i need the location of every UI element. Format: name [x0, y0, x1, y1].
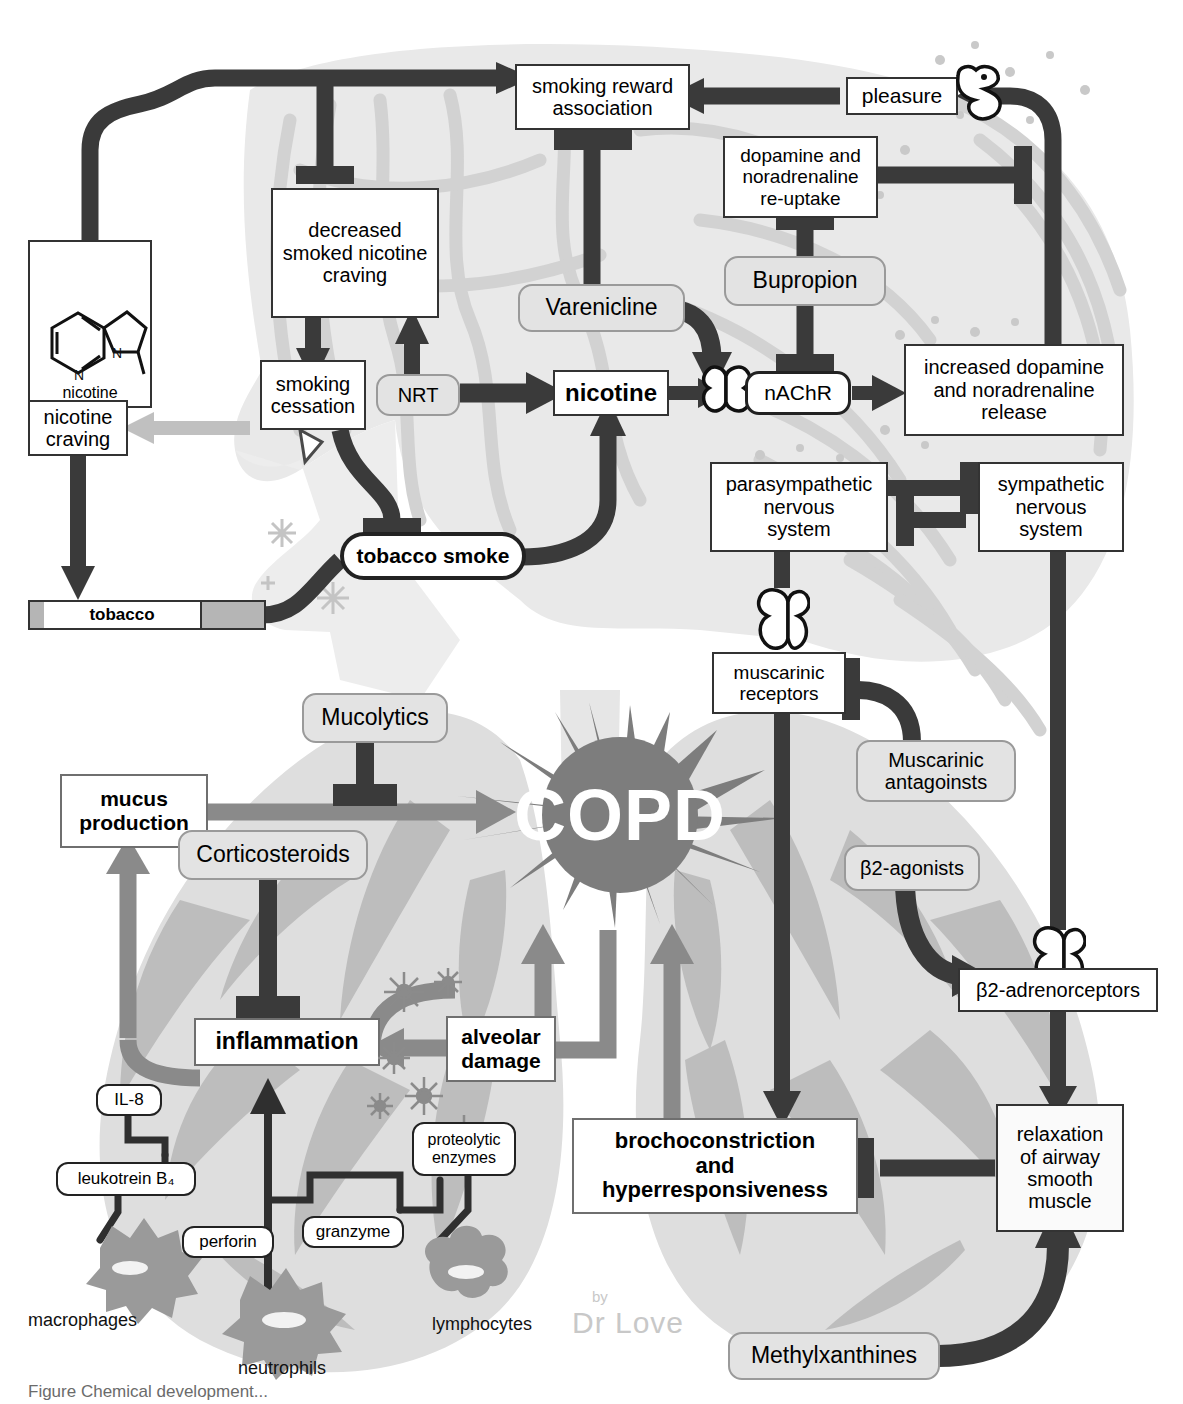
svg-text:N: N — [74, 367, 84, 383]
node-tobacco-cigarette: tobacco — [28, 600, 266, 630]
node-smoking-reward-association: smoking reward association — [515, 64, 690, 130]
mediator-perforin: perforin — [182, 1226, 274, 1258]
node-decreased-smoked-nicotine-craving: decreased smoked nicotine craving — [271, 188, 439, 318]
node-beta2-agonists[interactable]: β2-agonists — [844, 845, 980, 891]
node-tobacco-smoke: tobacco smoke — [340, 532, 526, 580]
label-neutrophils: neutrophils — [238, 1358, 326, 1379]
mediator-il8: IL-8 — [96, 1084, 162, 1116]
cell-lymphocyte — [425, 1226, 508, 1298]
node-relaxation-airway-smooth-muscle: relaxation of airway smooth muscle — [996, 1104, 1124, 1232]
receptor-icon-muscarinic — [756, 586, 810, 658]
node-muscarinic-antagonists[interactable]: Muscarinic antagoinsts — [856, 740, 1016, 802]
copd-concept-map: COPD — [0, 0, 1183, 1404]
svg-text:N: N — [112, 345, 122, 361]
mediator-leukotrein-b4: leukotrein B₄ — [56, 1162, 196, 1196]
node-smoking-cessation: smoking cessation — [260, 360, 366, 430]
node-dopamine-noradrenaline-reuptake: dopamine and noradrenaline re-uptake — [723, 136, 878, 218]
node-methylxanthines[interactable]: Methylxanthines — [728, 1332, 940, 1380]
cigarette-tip — [30, 602, 44, 628]
node-pleasure: pleasure — [846, 77, 958, 115]
signature-by: by — [592, 1288, 608, 1305]
mediator-granzyme: granzyme — [302, 1216, 404, 1248]
label-lymphocytes: lymphocytes — [432, 1314, 532, 1335]
node-alveolar-damage: alveolar damage — [446, 1016, 556, 1082]
cigarette-filter — [200, 602, 264, 628]
node-mucolytics[interactable]: Mucolytics — [302, 693, 448, 743]
node-increased-dopamine-noradrenaline-release: increased dopamine and noradrenaline rel… — [904, 344, 1124, 436]
receptor-icon-pleasure — [952, 62, 1010, 132]
node-inflammation: inflammation — [194, 1018, 380, 1066]
node-nachr: nAChR — [745, 371, 851, 415]
node-sympathetic-nervous-system: sympathetic nervous system — [978, 462, 1124, 552]
figure-caption: Figure Chemical development... — [28, 1382, 268, 1402]
copd-center-burst: COPD — [455, 700, 785, 930]
mediator-proteolytic-enzymes: proteolytic enzymes — [412, 1122, 516, 1176]
node-muscarinic-receptors: muscarinic receptors — [712, 652, 846, 714]
signature-author: Dr Love — [572, 1306, 684, 1340]
node-parasympathetic-nervous-system: parasympathetic nervous system — [710, 462, 888, 552]
tobacco-label: tobacco — [44, 605, 200, 625]
node-beta2-adrenorceptors: β2-adrenorceptors — [958, 968, 1158, 1012]
copd-label: COPD — [455, 700, 785, 930]
node-varenicline[interactable]: Varenicline — [518, 284, 685, 332]
node-nicotine: nicotine — [553, 370, 669, 416]
node-nrt[interactable]: NRT — [376, 374, 460, 416]
node-bupropion[interactable]: Bupropion — [724, 256, 886, 306]
node-brochoconstriction: brochoconstriction and hyperresponsivene… — [572, 1118, 858, 1214]
node-corticosteroids[interactable]: Corticosteroids — [178, 830, 368, 880]
nicotine-structure-box: N N nicotine — [28, 240, 152, 408]
label-macrophages: macrophages — [28, 1310, 137, 1331]
node-nicotine-craving: nicotine craving — [28, 400, 128, 456]
